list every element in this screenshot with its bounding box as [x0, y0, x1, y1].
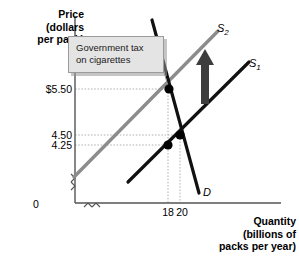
- x-axis-title-line-3: packs per year): [196, 240, 296, 253]
- y-tick-label-550: $5.50: [16, 83, 72, 95]
- point-post-tax-equilibrium: [164, 84, 173, 93]
- x-axis-title: Quantity (billions of packs per year): [196, 215, 296, 253]
- supply-demand-chart: Price (dollars per pack) Quantity (billi…: [0, 0, 299, 265]
- callout-line-2: on cigarettes: [76, 54, 157, 66]
- y-axis-title-line-2: (dollars: [2, 21, 84, 34]
- curve-label-s2-subscript: 2: [224, 28, 228, 37]
- y-axis-title-line-1: Price: [2, 8, 84, 21]
- curve-label-s1: S1: [249, 57, 261, 72]
- y-tick-label-425: 4.25: [16, 139, 72, 151]
- curve-label-s2: S2: [217, 22, 229, 37]
- curve-label-d-text: D: [203, 186, 211, 198]
- supply-shift-arrow: [196, 49, 214, 104]
- supply-curve-s1: [128, 62, 249, 182]
- origin-label: 0: [28, 198, 44, 210]
- government-tax-callout: Government tax on cigarettes: [68, 36, 164, 73]
- curve-label-d: D: [203, 186, 211, 198]
- x-axis-title-line-2: (billions of: [196, 228, 296, 241]
- point-pre-tax-equilibrium: [175, 130, 184, 139]
- callout-line-1: Government tax: [76, 42, 157, 54]
- x-tick-label-20: 20: [172, 206, 192, 218]
- equilibrium-points: [163, 84, 184, 149]
- point-producer-price: [163, 140, 172, 149]
- curve-label-s1-subscript: 1: [256, 63, 260, 72]
- x-axis-title-line-1: Quantity: [196, 215, 296, 228]
